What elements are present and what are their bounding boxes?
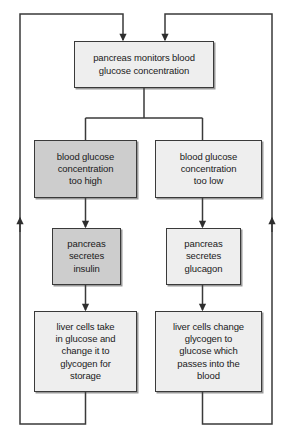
node-liver-releases-glucose-label: liver cells change glycogen to glucose w… — [173, 321, 244, 382]
node-glucose-too-low: blood glucose concentration too low — [155, 140, 262, 198]
node-pancreas-secretes-glucagon: pancreas secretes glucagon — [166, 228, 241, 285]
node-liver-stores-glycogen: liver cells take in glucose and change i… — [34, 311, 137, 392]
node-pancreas-monitors: pancreas monitors blood glucose concentr… — [74, 41, 214, 88]
node-glucose-too-low-label: blood glucose concentration too low — [180, 151, 237, 188]
node-liver-stores-glycogen-label: liver cells take in glucose and change i… — [56, 321, 116, 382]
node-glucose-too-high-label: blood glucose concentration too high — [57, 151, 114, 188]
node-pancreas-secretes-glucagon-label: pancreas secretes glucagon — [184, 238, 222, 275]
node-pancreas-secretes-insulin: pancreas secretes insulin — [52, 228, 121, 285]
node-pancreas-secretes-insulin-label: pancreas secretes insulin — [67, 238, 105, 275]
node-pancreas-monitors-label: pancreas monitors blood glucose concentr… — [93, 52, 195, 76]
node-glucose-too-high: blood glucose concentration too high — [34, 140, 137, 198]
flowchart-diagram: pancreas monitors blood glucose concentr… — [0, 0, 288, 431]
node-liver-releases-glucose: liver cells change glycogen to glucose w… — [155, 311, 262, 392]
